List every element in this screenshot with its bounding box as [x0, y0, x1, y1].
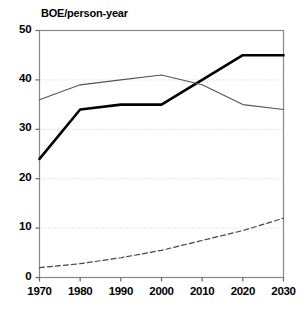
y-tick-label: 40 — [6, 72, 32, 84]
x-tick-label: 1970 — [20, 285, 60, 297]
y-tick-label: 0 — [6, 270, 32, 282]
x-tick-label: 1980 — [60, 285, 100, 297]
x-tick-label: 2000 — [142, 285, 182, 297]
plot-area — [0, 0, 306, 315]
chart-container: BOE/person-year 01020304050 197019801990… — [0, 0, 306, 315]
y-tick-label: 30 — [6, 121, 32, 133]
x-tick-label: 2010 — [182, 285, 222, 297]
series-line-thick-solid — [40, 55, 284, 159]
x-tick-label: 1990 — [101, 285, 141, 297]
y-tick-label: 10 — [6, 220, 32, 232]
y-tick-label: 20 — [6, 171, 32, 183]
y-tick-label: 50 — [6, 23, 32, 35]
series-line-dashed — [40, 218, 284, 267]
x-tick-label: 2030 — [264, 285, 304, 297]
data-series-group — [40, 55, 284, 267]
tick-marks-group — [36, 31, 284, 282]
axis-frame — [40, 31, 284, 278]
gridlines-group — [40, 31, 284, 229]
x-tick-label: 2020 — [223, 285, 263, 297]
